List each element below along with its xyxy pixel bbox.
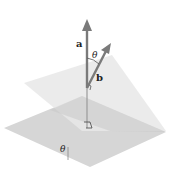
vector-a-arrowhead-icon xyxy=(82,19,92,31)
label-angle-planes: θ xyxy=(60,144,66,154)
label-angle-normals: θ xyxy=(92,50,98,60)
label-vector-b: b xyxy=(96,72,103,83)
vector-b-arrowhead-icon xyxy=(101,43,111,54)
diagram-canvas: a b θ θ xyxy=(0,0,170,179)
label-vector-a: a xyxy=(76,38,83,49)
